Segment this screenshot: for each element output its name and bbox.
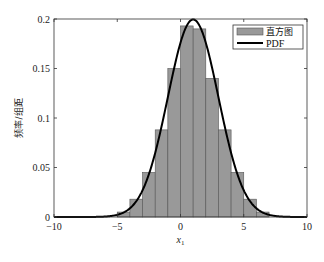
legend-pdf-label: PDF: [266, 38, 285, 49]
legend: 直方图 PDF: [233, 25, 303, 49]
x-tick-label: 5: [241, 221, 246, 232]
histogram-bar: [193, 29, 206, 217]
y-tick-label: 0.15: [33, 63, 51, 74]
histogram-bars: [117, 26, 269, 217]
x-tick-label: −10: [46, 221, 62, 232]
histogram-bar: [206, 78, 219, 217]
y-tick-label: 0.2: [38, 14, 51, 25]
y-axis-label: 频率/组距: [13, 98, 24, 137]
histogram-bar: [231, 172, 244, 217]
histogram-bar: [143, 172, 156, 217]
y-tick-label: 0: [45, 212, 50, 223]
histogram-bar: [181, 26, 194, 217]
legend-histogram-label: 直方图: [266, 26, 293, 37]
x-tick-label: 0: [178, 221, 183, 232]
histogram-chart: −10−50510 00.050.10.150.2 x1 频率/组距 直方图 P…: [0, 0, 324, 262]
x-tick-label: 10: [302, 221, 312, 232]
x-tick-label: −5: [112, 221, 123, 232]
legend-histogram-swatch: [237, 28, 263, 35]
x-axis-label: x1: [176, 234, 185, 247]
y-tick-label: 0.05: [33, 162, 51, 173]
y-tick-label: 0.1: [38, 113, 51, 124]
